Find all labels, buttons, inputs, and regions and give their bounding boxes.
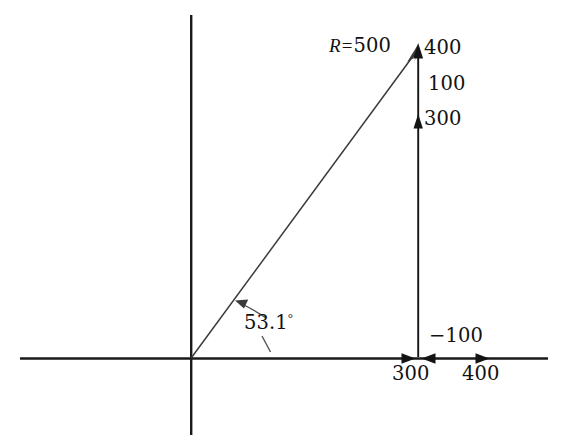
angle-label: 53.1° bbox=[244, 313, 293, 333]
vector-diagram: R=500 400 100 300 −100 300 400 53.1° bbox=[0, 0, 565, 448]
angle-leader-arrowhead bbox=[235, 300, 248, 309]
resultant-value: 500 bbox=[354, 34, 392, 57]
x-negative-segment-label: −100 bbox=[429, 326, 483, 346]
angle-value: 53.1 bbox=[244, 311, 288, 334]
resultant-symbol: R bbox=[329, 35, 341, 56]
resultant-label: R=500 bbox=[329, 36, 391, 56]
y-component-lower-arrowhead bbox=[414, 114, 423, 129]
resultant-equals: = bbox=[341, 35, 354, 56]
y-lower-segment-label: 300 bbox=[424, 109, 462, 129]
y-upper-segment-label: 100 bbox=[428, 74, 466, 94]
resultant-vector-line bbox=[191, 52, 416, 358]
angle-tick-mark bbox=[262, 336, 271, 352]
x-tick-300-label: 300 bbox=[392, 364, 430, 384]
degree-symbol: ° bbox=[288, 310, 293, 325]
y-total-label: 400 bbox=[424, 38, 462, 58]
x-tick-400-label: 400 bbox=[462, 364, 500, 384]
